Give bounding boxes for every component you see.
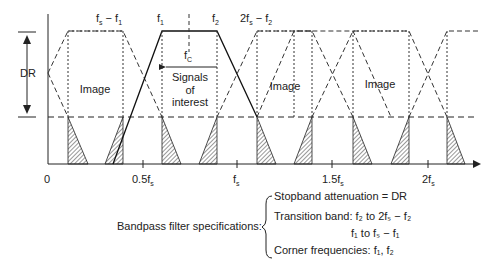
label-f2: f2 — [212, 12, 219, 26]
image-5 — [409, 31, 480, 117]
label-fc: fC — [184, 49, 192, 63]
label-f1: f1 — [157, 12, 164, 26]
spec-transition-2: f₁ to fₛ − f₁ — [351, 227, 399, 240]
alias-region — [105, 117, 123, 164]
alias-region — [391, 117, 409, 164]
alias-region — [162, 117, 181, 164]
specs-brace — [262, 196, 272, 258]
spec-corner: Corner frequencies: f₁, f₂ — [274, 244, 394, 256]
alias-region — [199, 117, 217, 164]
alias-region — [257, 117, 276, 164]
label-2fs-minus-f2: 2fs − f2 — [240, 12, 272, 26]
spectrum-diagram: DR 0 0.5fs fs 1.5fs 2fs fs − f1 f1 f2 2f… — [0, 0, 491, 274]
dr-arrow-down-icon — [23, 105, 31, 114]
image-3 — [257, 31, 391, 117]
dr-arrow-up-icon — [23, 35, 31, 44]
image-label-1: Image — [80, 83, 111, 95]
x-axis-arrow-icon — [473, 160, 481, 168]
alias-region — [294, 117, 312, 164]
tick-label-2fs: 2fs — [422, 173, 435, 187]
origin-label: 0 — [44, 173, 50, 185]
signals-label-line1: Signals — [172, 71, 209, 83]
alias-region — [353, 117, 372, 164]
image-1-left-edge — [48, 73, 68, 117]
dr-label: DR — [20, 67, 36, 79]
image-spectra — [48, 31, 480, 117]
specs-heading: Bandpass filter specifications: — [117, 220, 262, 232]
tick-label-fs: fs — [233, 173, 240, 187]
signals-label-line2: of — [185, 84, 195, 96]
tick-label-1.5fs: 1.5fs — [322, 173, 344, 187]
image-label-3: Image — [365, 78, 396, 90]
image-4 — [312, 31, 447, 117]
image-1 — [48, 31, 162, 117]
signals-label-line3: interest — [172, 96, 208, 108]
spec-transition: Transition band: f₂ to 2fₛ − f₂ — [274, 210, 411, 223]
label-fs-minus-f1: fs − f1 — [96, 12, 122, 26]
tick-label-0.5fs: 0.5fs — [132, 173, 154, 187]
spec-stopband: Stopband attenuation = DR — [274, 190, 407, 202]
image-label-2: Image — [270, 80, 301, 92]
alias-region — [447, 117, 465, 164]
alias-region — [68, 117, 88, 164]
